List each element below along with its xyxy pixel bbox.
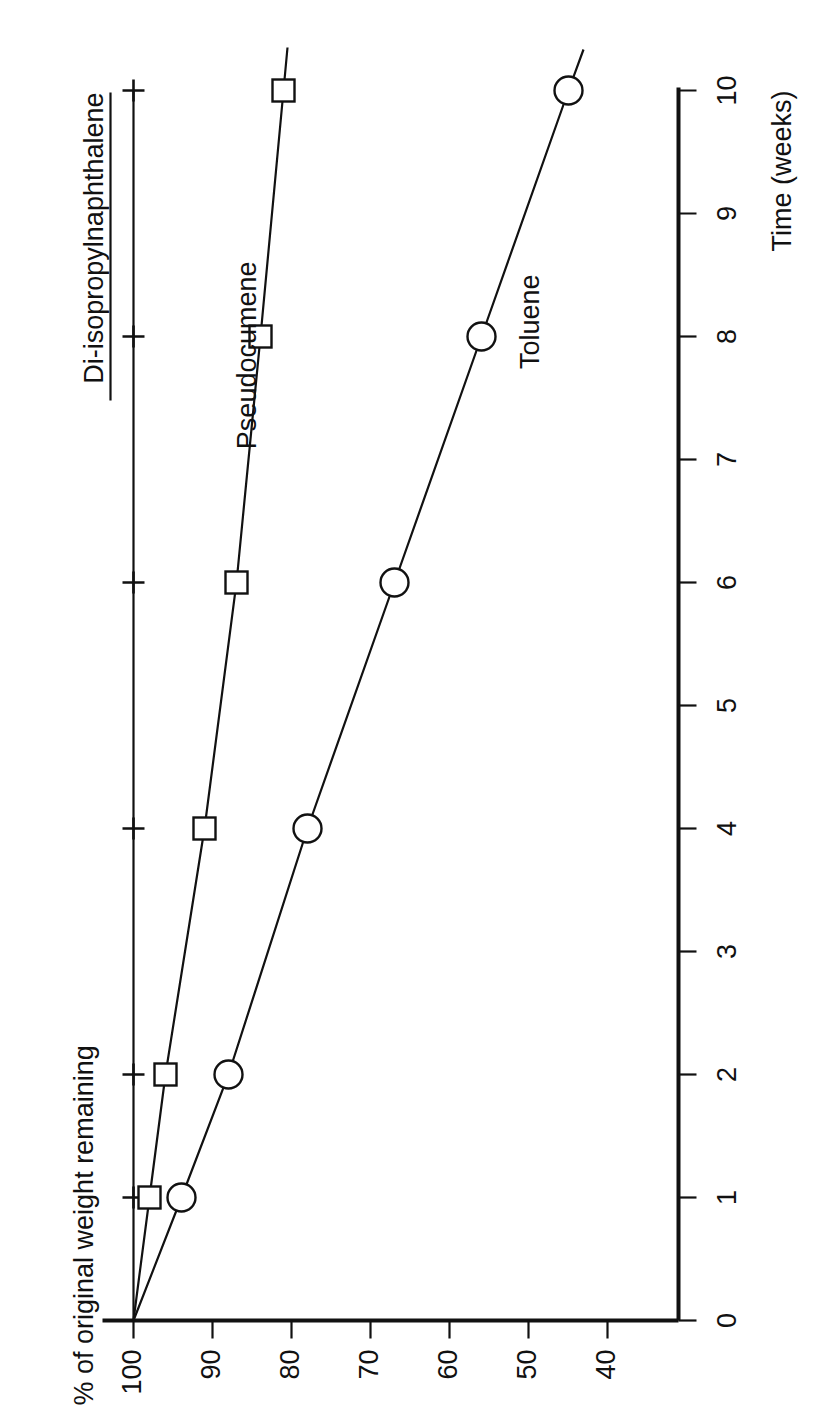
x-tick-label-5: 5 <box>711 697 741 712</box>
marker-circle <box>554 76 582 104</box>
x-axis-ticks <box>678 90 696 1320</box>
x-tick-labels: 0 1 2 3 4 5 6 7 8 9 10 <box>711 75 741 1328</box>
marker-plus <box>122 571 144 593</box>
x-tick-label-2: 2 <box>711 1066 741 1081</box>
marker-circle <box>293 814 321 842</box>
marker-circle <box>214 1060 242 1088</box>
series-label-diisopropylnaphthalene: Di-isopropylnaphthalene <box>78 92 108 383</box>
x-tick-label-10: 10 <box>711 75 741 105</box>
plot-area: 0 1 2 3 4 5 6 7 8 9 10 100 90 80 70 60 5… <box>0 0 814 1427</box>
series-annotation-diisopropylnaphthalene: Di-isopropylnaphthalene <box>78 92 110 400</box>
marker-plus <box>122 79 144 101</box>
marker-square <box>272 79 294 101</box>
x-tick-label-9: 9 <box>711 205 741 220</box>
y-axis-ticks <box>133 1320 607 1338</box>
y-tick-label-70: 70 <box>353 1349 383 1379</box>
chart-svg: 0 1 2 3 4 5 6 7 8 9 10 100 90 80 70 60 5… <box>0 0 814 1427</box>
x-tick-label-6: 6 <box>711 574 741 589</box>
series-diisopropylnaphthalene <box>122 79 144 1320</box>
marker-square <box>154 1063 176 1085</box>
y-tick-label-60: 60 <box>432 1349 462 1379</box>
series-label-toluene: Toluene <box>514 274 544 369</box>
series-markers-pseudocumene <box>138 79 294 1208</box>
marker-circle <box>467 322 495 350</box>
marker-square <box>138 1186 160 1208</box>
y-tick-label-100: 100 <box>116 1349 146 1394</box>
chart-figure: 0 1 2 3 4 5 6 7 8 9 10 100 90 80 70 60 5… <box>0 0 814 1427</box>
x-tick-label-3: 3 <box>711 943 741 958</box>
y-tick-label-90: 90 <box>195 1349 225 1379</box>
y-tick-label-40: 40 <box>590 1349 620 1379</box>
marker-square <box>193 817 215 839</box>
y-tick-labels: 100 90 80 70 60 50 40 <box>116 1349 620 1394</box>
marker-plus <box>122 325 144 347</box>
series-toluene <box>133 49 583 1320</box>
series-line-toluene <box>133 49 583 1320</box>
marker-square <box>225 571 247 593</box>
marker-circle <box>380 568 408 596</box>
x-axis-title: Time (weeks) <box>766 90 796 251</box>
x-tick-label-7: 7 <box>711 451 741 466</box>
marker-plus <box>122 817 144 839</box>
x-tick-label-0: 0 <box>711 1312 741 1327</box>
x-tick-label-1: 1 <box>711 1189 741 1204</box>
y-tick-label-80: 80 <box>274 1349 304 1379</box>
series-pseudocumene <box>133 47 294 1320</box>
marker-plus <box>122 1063 144 1085</box>
marker-circle <box>167 1183 195 1211</box>
series-line-pseudocumene <box>133 47 287 1320</box>
y-tick-label-50: 50 <box>511 1349 541 1379</box>
x-tick-label-8: 8 <box>711 328 741 343</box>
y-axis-title: % of original weight remaining <box>68 1045 98 1405</box>
series-label-pseudocumene: Pseudocumene <box>231 261 261 449</box>
x-tick-label-4: 4 <box>711 820 741 835</box>
